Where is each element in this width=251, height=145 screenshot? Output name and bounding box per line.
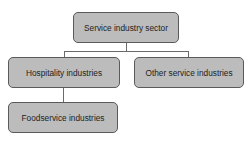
node-label: Hospitality industries	[26, 68, 102, 78]
connector-to-foodservice	[63, 87, 64, 102]
connector-root-down	[126, 42, 127, 51]
node-label: Service industry sector	[84, 23, 168, 33]
node-label: Foodservice industries	[21, 113, 104, 123]
node-other-service-industries: Other service industries	[134, 57, 244, 88]
node-hospitality-industries: Hospitality industries	[8, 57, 120, 88]
node-label: Other service industries	[145, 68, 232, 78]
node-foodservice-industries: Foodservice industries	[8, 102, 118, 133]
connector-horizontal	[64, 51, 189, 52]
node-service-industry-sector: Service industry sector	[73, 12, 179, 43]
